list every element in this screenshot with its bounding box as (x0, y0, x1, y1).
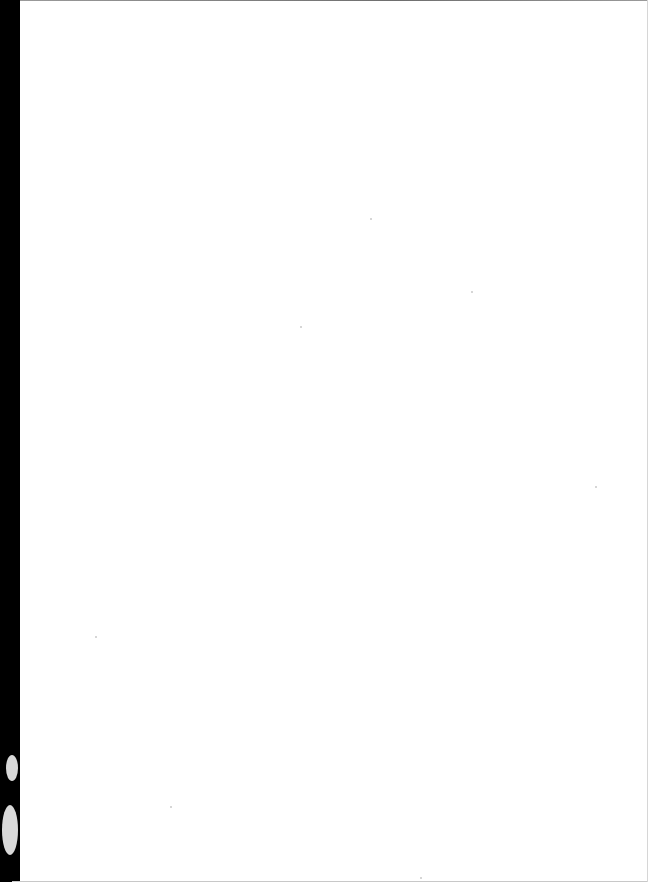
binding-shadow (6, 755, 18, 781)
binding-shadow (2, 805, 18, 855)
scan-speck (170, 806, 172, 808)
scan-speck (300, 326, 302, 328)
scan-top-edge (20, 0, 648, 1)
blank-page (20, 1, 647, 881)
scan-speck (370, 218, 372, 220)
scan-speck (471, 291, 473, 293)
scan-speck (95, 636, 97, 638)
scan-speck (420, 877, 422, 879)
scan-binding-edge (0, 0, 20, 882)
scan-speck (595, 486, 597, 488)
